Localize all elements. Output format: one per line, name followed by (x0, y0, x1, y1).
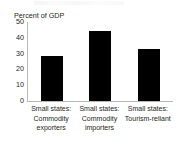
bar-chart-figure: Percent of GDP 50403020100 Small states:… (0, 0, 178, 143)
x-category-label: Small states:Tourism-reliant (120, 104, 176, 123)
y-tick-label: 30 (2, 50, 24, 58)
bars-layer (28, 22, 173, 101)
bar (41, 56, 63, 101)
x-axis-line (27, 101, 173, 102)
y-tick-label: 10 (2, 81, 24, 89)
y-tick-label: 40 (2, 34, 24, 42)
bar (138, 49, 160, 101)
y-tick-label: 0 (2, 97, 24, 105)
bar-slot (28, 22, 76, 101)
bar (89, 31, 111, 101)
y-axis-tick-labels: 50403020100 (0, 0, 24, 143)
x-category-label-line: importers (71, 123, 127, 133)
bar-slot (76, 22, 124, 101)
y-tick-label: 20 (2, 65, 24, 73)
x-category-label-line: Tourism-reliant (120, 114, 176, 124)
bar-slot (125, 22, 173, 101)
y-tick-label: 50 (2, 18, 24, 26)
top-edge-artifact (34, 1, 124, 5)
x-axis-category-labels: Small states:CommodityexportersSmall sta… (27, 104, 174, 142)
x-category-label-line: Small states: (120, 104, 176, 114)
